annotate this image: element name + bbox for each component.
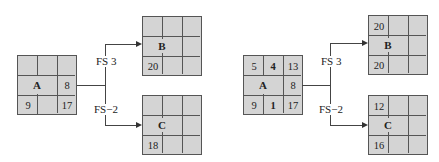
duration-cell [37,56,57,76]
connector-line [330,43,363,44]
es-cell: 5 [244,56,264,76]
activity-label: B [378,38,398,52]
link-label-a-c: FS−2 [93,104,119,115]
activity-label: C [378,118,398,132]
lf-cell: 17 [57,95,77,115]
grid-line [182,17,184,74]
ef-cell [57,56,77,76]
ls-cell: 20 [143,56,163,76]
node-b-right: 20 B 20 [368,15,428,75]
es-cell: 12 [369,96,389,116]
connector-line [302,85,330,86]
tf-cell [37,95,57,115]
grid-line [408,96,410,153]
grid-line [143,36,200,38]
activity-label: A [27,75,47,95]
lf-cell: 17 [283,95,303,115]
activity-label: C [152,118,172,132]
connector-line [105,125,137,126]
node-b-left: B 20 [142,16,202,76]
connector-line [330,125,363,126]
arrow-icon [362,122,368,128]
grid-line [408,16,410,73]
arrow-icon [136,41,142,47]
arrow-icon [136,122,142,128]
es-cell [18,56,38,76]
link-label-a-b: FS 3 [320,56,343,67]
ef-cell: 13 [283,56,303,76]
activity-label: B [152,39,172,53]
ls-cell: 16 [369,135,389,155]
node-a-right: 5 4 13 A 8 9 1 17 [243,55,303,115]
slack-cell: 8 [57,75,77,95]
es-cell: 20 [369,16,389,36]
node-a-left: A 8 9 17 [17,55,77,115]
duration-cell: 4 [263,56,283,76]
ls-cell: 9 [244,95,264,115]
ls-cell: 18 [143,135,163,155]
ls-cell: 9 [18,95,38,115]
activity-label: A [253,75,273,95]
link-label-a-b: FS 3 [95,56,118,67]
node-c-left: C 18 [142,95,202,155]
ls-cell: 20 [369,55,389,75]
connector-line [77,85,105,86]
tf-cell: 1 [263,95,283,115]
node-c-right: 12 C 16 [368,95,428,155]
slack-cell: 8 [283,75,303,95]
arrow-icon [362,40,368,46]
grid-line [182,96,184,153]
connector-line [105,44,137,45]
link-label-a-c: FS−2 [318,104,344,115]
grid-line [143,115,200,117]
